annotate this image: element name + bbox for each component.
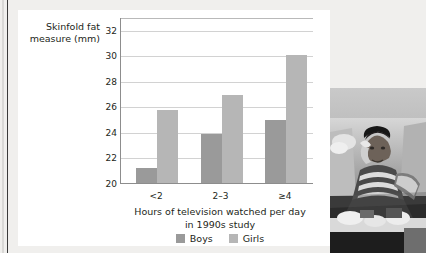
legend-item-boys: Boys <box>176 233 213 244</box>
plot-area-wrapper: 20222426283032 <22–3≥4 <box>120 18 313 193</box>
legend-label: Girls <box>243 233 265 244</box>
legend-item-girls: Girls <box>229 233 265 244</box>
bar-group <box>136 18 178 183</box>
bar-boys <box>136 168 157 183</box>
bar-girls <box>222 95 243 183</box>
bar-group <box>265 18 307 183</box>
x-axis-tick-label: ≥4 <box>278 191 291 201</box>
legend-swatch-icon <box>229 234 238 243</box>
photograph <box>330 88 426 253</box>
x-axis-tick-label: <2 <box>150 191 163 201</box>
y-axis-tick-label: 28 <box>87 77 117 87</box>
bar-chart-figure: Skinfold fat measure (mm) 20222426283032… <box>18 10 330 246</box>
legend-label: Boys <box>190 233 213 244</box>
plot-area <box>120 18 313 184</box>
chart-legend: BoysGirls <box>114 233 326 244</box>
bar-boys <box>265 120 286 183</box>
content-card: Skinfold fat measure (mm) 20222426283032… <box>18 10 330 246</box>
left-margin-shade <box>2 0 4 253</box>
y-axis-tick-label: 32 <box>87 26 117 36</box>
bar-group <box>201 18 243 183</box>
y-axis-tick-label: 22 <box>87 153 117 163</box>
y-axis-tick-label: 30 <box>87 51 117 61</box>
legend-swatch-icon <box>176 234 185 243</box>
page-background: Skinfold fat measure (mm) 20222426283032… <box>0 0 426 253</box>
bar-girls <box>286 55 307 183</box>
bar-series-container <box>121 18 313 183</box>
x-axis-title: Hours of television watched per day in 1… <box>114 206 326 231</box>
photograph-image <box>330 88 426 253</box>
x-axis-tick-label: 2–3 <box>213 191 229 201</box>
y-axis-tick-label: 24 <box>87 128 117 138</box>
bar-girls <box>157 110 178 183</box>
y-axis-tick-label: 26 <box>87 102 117 112</box>
y-axis-tick-label: 20 <box>87 179 117 189</box>
left-margin-rule <box>7 0 8 253</box>
bar-boys <box>201 134 222 183</box>
